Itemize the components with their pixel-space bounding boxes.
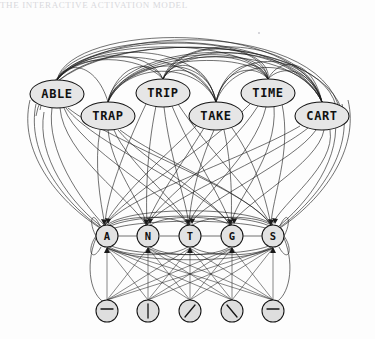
letter-node-a[interactable]: A: [96, 225, 118, 247]
feature-node-1[interactable]: [96, 300, 118, 322]
letter-node-n[interactable]: N: [137, 225, 159, 247]
word-node-label: TRAP: [92, 109, 123, 123]
letter-node-label: N: [145, 230, 151, 242]
interactive-activation-diagram: THE INTERACTIVE ACTIVATION MODEL: [0, 0, 375, 339]
word-node-label: TRIP: [147, 86, 178, 100]
feature-node-group: [96, 300, 284, 322]
word-node-take[interactable]: TAKE: [189, 102, 243, 130]
word-node-label: TAKE: [200, 109, 231, 123]
word-node-trap[interactable]: TRAP: [81, 102, 135, 130]
feature-node-2[interactable]: [137, 300, 159, 322]
word-node-trip[interactable]: TRIP: [136, 79, 190, 107]
network-canvas: ABLE TRAP TRIP TAKE TIME CART: [0, 0, 375, 339]
letter-node-t[interactable]: T: [179, 225, 201, 247]
letter-node-label: S: [270, 230, 276, 242]
letter-node-label: A: [104, 230, 111, 242]
word-node-able[interactable]: ABLE: [30, 80, 84, 108]
letter-node-label: T: [187, 230, 193, 242]
letter-node-s[interactable]: S: [262, 225, 284, 247]
feature-to-letter-connections: [90, 238, 290, 302]
feature-node-3[interactable]: [179, 300, 201, 322]
word-node-cart[interactable]: CART: [295, 102, 349, 130]
word-node-label: TIME: [252, 86, 283, 100]
feature-node-4[interactable]: [221, 300, 243, 322]
word-node-label: CART: [306, 109, 337, 123]
letter-node-label: G: [229, 230, 235, 242]
word-to-word-inhibition-arcs: [36, 38, 344, 118]
word-node-time[interactable]: TIME: [241, 79, 295, 107]
word-node-label: ABLE: [41, 87, 72, 101]
letter-node-g[interactable]: G: [221, 225, 243, 247]
feature-node-5[interactable]: [262, 300, 284, 322]
word-node-group: ABLE TRAP TRIP TAKE TIME CART: [30, 79, 349, 130]
